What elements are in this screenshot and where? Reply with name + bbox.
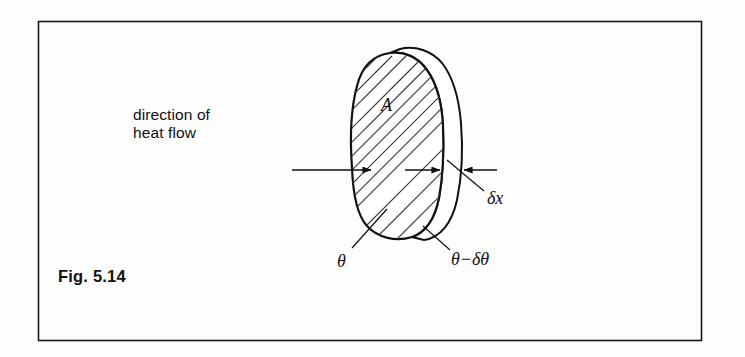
heat-flow-direction-line1: direction of bbox=[133, 106, 210, 123]
back-temperature-label: θ−δθ bbox=[451, 249, 489, 270]
figure-panel: direction ofheat flow A δx θ θ−δθ Fig. 5… bbox=[0, 0, 745, 357]
heat-flow-direction-line2: heat flow bbox=[133, 124, 196, 141]
slab-front-face bbox=[351, 53, 443, 239]
figure-caption: Fig. 5.14 bbox=[58, 267, 126, 286]
front-temperature-label: θ bbox=[337, 251, 346, 272]
heat-flow-direction-label: direction ofheat flow bbox=[133, 106, 210, 143]
area-label: A bbox=[381, 95, 392, 116]
heat-conduction-diagram bbox=[0, 0, 745, 357]
thickness-label: δx bbox=[487, 188, 503, 209]
